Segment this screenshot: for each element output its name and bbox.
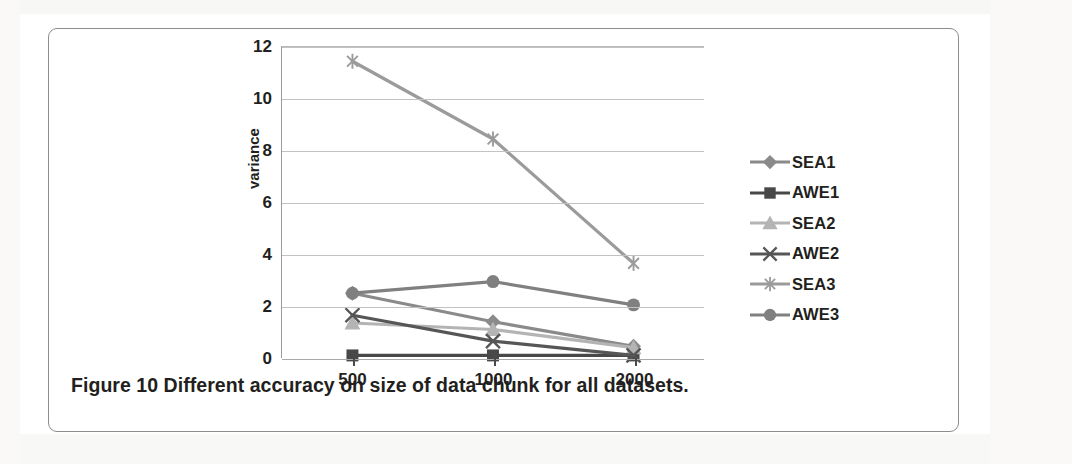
figure-caption: Figure 10 Different accuracy on size of … [71, 374, 689, 397]
x-tick-mark-1000 [494, 358, 496, 366]
marker-square [764, 187, 775, 198]
legend-item-sea1[interactable]: SEA1 [749, 147, 934, 178]
chart-legend: SEA1AWE1SEA2AWE2SEA3AWE3 [749, 147, 934, 330]
legend-label-awe3: AWE3 [792, 305, 839, 324]
y-tick-label-4: 4 [263, 245, 272, 265]
legend-label-awe2: AWE2 [792, 244, 839, 263]
marker-circle [627, 298, 640, 311]
marker-circle [487, 275, 500, 288]
series-awe3 [346, 275, 640, 311]
gridline-y-10 [282, 99, 704, 100]
marker-circle [764, 309, 776, 321]
y-tick-label-12: 12 [253, 37, 272, 57]
legend-label-sea1: SEA1 [792, 153, 836, 172]
marker-circle [346, 287, 359, 300]
y-tick-label-10: 10 [253, 89, 272, 109]
legend-swatch-sea3 [749, 275, 791, 293]
marker-asterisk [347, 54, 358, 69]
legend-label-sea2: SEA2 [792, 214, 836, 233]
y-tick-label-2: 2 [263, 297, 272, 317]
legend-swatch-sea1 [749, 153, 791, 171]
chart-canvas: variance 02468101250010002000 SEA1AWE1SE… [49, 29, 960, 433]
gridline-y-4 [282, 255, 704, 256]
gridline-y-8 [282, 151, 704, 152]
gridline-y-12 [282, 47, 704, 48]
y-tick-label-0: 0 [263, 349, 272, 369]
legend-swatch-awe2 [749, 245, 791, 263]
legend-item-awe2[interactable]: AWE2 [749, 239, 934, 270]
y-axis-title: variance [245, 128, 262, 189]
legend-item-sea2[interactable]: SEA2 [749, 208, 934, 239]
y-tick-label-6: 6 [263, 193, 272, 213]
legend-label-awe1: AWE1 [792, 183, 839, 202]
y-tick-label-8: 8 [263, 141, 272, 161]
x-tick-mark-500 [353, 358, 355, 366]
legend-swatch-sea2 [749, 214, 791, 232]
plot-area: 02468101250010002000 [281, 46, 704, 358]
series-line-sea3 [352, 61, 633, 263]
series-sea3 [347, 54, 639, 271]
gridline-y-2 [282, 307, 704, 308]
x-tick-mark-2000 [635, 358, 637, 366]
legend-item-awe1[interactable]: AWE1 [749, 178, 934, 209]
figure-frame: variance 02468101250010002000 SEA1AWE1SE… [48, 28, 959, 432]
legend-item-awe3[interactable]: AWE3 [749, 300, 934, 331]
legend-item-sea3[interactable]: SEA3 [749, 269, 934, 300]
legend-swatch-awe3 [749, 306, 791, 324]
gridline-y-6 [282, 203, 704, 204]
marker-diamond [763, 155, 777, 169]
legend-label-sea3: SEA3 [792, 275, 836, 294]
legend-swatch-awe1 [749, 184, 791, 202]
